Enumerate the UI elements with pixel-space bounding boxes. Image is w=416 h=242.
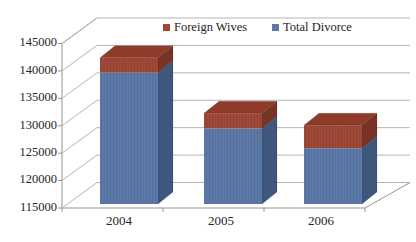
legend-swatch-icon	[163, 24, 170, 31]
gridline-depth-connector	[62, 183, 97, 209]
foreign-wives-front-face	[100, 58, 158, 73]
legend-swatch-icon	[272, 24, 279, 31]
x-axis-label: 2006	[308, 213, 335, 228]
gridline-depth-connector	[62, 45, 97, 70]
gridline-depth-connector	[62, 128, 97, 154]
legend-label: Foreign Wives	[174, 20, 247, 34]
foreign-wives-front-face	[204, 113, 262, 128]
x-axis-labels: 200420052006	[106, 213, 335, 228]
foreign-wives-front-face	[304, 125, 362, 148]
gridline-depth-connector	[62, 155, 97, 181]
y-axis-tick-label: 115000	[20, 200, 57, 214]
y-axis-tick-label: 125000	[20, 145, 58, 159]
legend-item-total-divorce: Total Divorce	[272, 20, 352, 34]
total-divorce-side-face	[158, 61, 173, 204]
x-axis-label: 2004	[106, 213, 133, 228]
y-axis-tick-label: 140000	[20, 63, 58, 77]
legend-item-foreign-wives: Foreign Wives	[163, 20, 247, 34]
total-divorce-front-face	[100, 73, 158, 204]
total-divorce-front-face	[304, 148, 362, 204]
chart-container: 1450001400001350001300001250001200001150…	[0, 0, 416, 242]
bar-2004	[100, 46, 173, 204]
total-divorce-front-face	[204, 128, 262, 204]
bar-2005	[204, 101, 277, 204]
y-axis-tick-label: 135000	[20, 90, 58, 104]
bar-2006	[304, 113, 377, 204]
divorce-bar-chart: 1450001400001350001300001250001200001150…	[0, 0, 416, 242]
gridline-depth-connector	[62, 100, 97, 126]
gridline-depth-connector	[62, 73, 97, 99]
y-axis-tick-label: 120000	[20, 172, 58, 186]
legend: Foreign WivesTotal Divorce	[163, 20, 352, 34]
y-axis-labels: 1450001400001350001300001250001200001150…	[20, 35, 58, 214]
legend-label: Total Divorce	[283, 20, 352, 34]
y-axis-tick-label: 130000	[20, 118, 58, 132]
bars	[100, 46, 377, 204]
x-axis-label: 2005	[208, 213, 234, 228]
total-divorce-side-face	[262, 116, 277, 204]
y-axis-tick-label: 145000	[20, 35, 58, 49]
gridline-depth-connector	[62, 18, 97, 44]
